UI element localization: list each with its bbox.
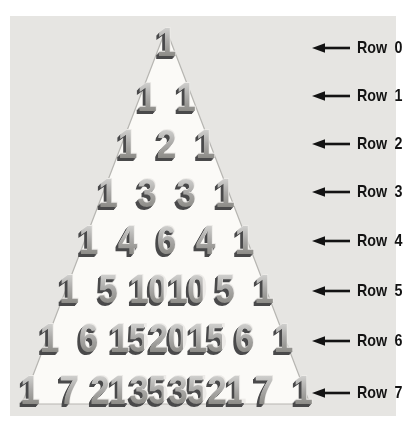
diagram-panel: 1111211331146411510105116152015611721353… [10, 16, 396, 416]
row-label: Row 3 [357, 185, 402, 199]
row-pointer-3: Row 3 [312, 185, 411, 199]
row-label: Row 4 [357, 234, 402, 248]
row-label: Row 6 [357, 334, 402, 348]
left-arrow-icon [312, 335, 350, 347]
row-pointer-7: Row 7 [312, 386, 411, 400]
left-arrow-icon [312, 138, 350, 150]
row-arrows: Row 0Row 1Row 2Row 3Row 4Row 5Row 6Row 7 [10, 16, 396, 416]
row-label: Row 0 [357, 41, 402, 55]
left-arrow-icon [312, 285, 350, 297]
row-pointer-0: Row 0 [312, 41, 411, 55]
left-arrow-icon [312, 235, 350, 247]
row-pointer-1: Row 1 [312, 89, 411, 103]
row-label: Row 2 [357, 137, 402, 151]
left-arrow-icon [312, 186, 350, 198]
left-arrow-icon [312, 90, 350, 102]
left-arrow-icon [312, 42, 350, 54]
row-label: Row 7 [357, 386, 402, 400]
row-pointer-6: Row 6 [312, 334, 411, 348]
row-label: Row 1 [357, 89, 402, 103]
row-pointer-5: Row 5 [312, 284, 411, 298]
row-pointer-2: Row 2 [312, 137, 411, 151]
left-arrow-icon [312, 387, 350, 399]
row-label: Row 5 [357, 284, 402, 298]
row-pointer-4: Row 4 [312, 234, 411, 248]
page: { "diagram": { "rows": [ {"label": "Row … [0, 0, 411, 435]
